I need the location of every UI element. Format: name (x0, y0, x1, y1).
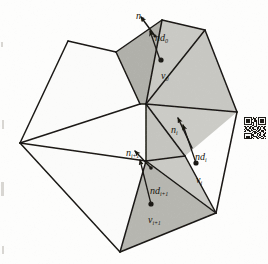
point-v0 (158, 57, 163, 62)
label-normal-displacement-i: ndi (195, 147, 206, 163)
scan-mark-left-lower (2, 246, 4, 254)
label-normal-displacement-i-base: nd (195, 151, 205, 162)
label-normal-displacement-i-plus-1-base: nd (150, 185, 160, 196)
label-normal-displacement-i-subscript: i (205, 157, 206, 163)
label-normal-displacement-i-plus-1: ndi+1 (150, 181, 168, 197)
label-normal-i-subscript: i (176, 130, 177, 136)
point-nip1-tail (149, 166, 153, 170)
label-vertex-i: vi (196, 170, 202, 186)
label-vertex-0-subscript: 0 (165, 76, 168, 82)
label-normal-0-subscript: 0 (141, 16, 144, 22)
scan-mark-left-top (1, 42, 3, 47)
point-vip1 (148, 201, 153, 206)
figure-container: n0nd0v0nindivini+1ndi+1vi+1 (0, 0, 268, 264)
label-normal-i: ni (171, 120, 177, 136)
label-normal-i-plus-1: ni+1 (126, 143, 139, 159)
label-normal-i-plus-1-subscript: i+1 (131, 153, 139, 159)
label-normal-displacement-0-subscript: 0 (165, 38, 168, 44)
scan-mark-left-mid (1, 182, 4, 196)
label-vertex-0: v0 (161, 66, 168, 82)
label-normal-displacement-0: nd0 (155, 28, 168, 44)
label-normal-0: n0 (136, 6, 144, 22)
label-normal-displacement-i-plus-1-subscript: i+1 (160, 191, 168, 197)
label-normal-displacement-0-base: nd (155, 32, 165, 43)
qr-code-artifact (244, 117, 266, 139)
label-vertex-i-subscript: i (200, 180, 201, 186)
scan-mark-left-upper (2, 120, 4, 129)
label-vertex-i-plus-1: vi+1 (148, 210, 161, 226)
label-vertex-i-plus-1-subscript: i+1 (152, 220, 160, 226)
mesh-diagram-svg (0, 0, 268, 264)
edge-right-to-br (216, 112, 237, 213)
